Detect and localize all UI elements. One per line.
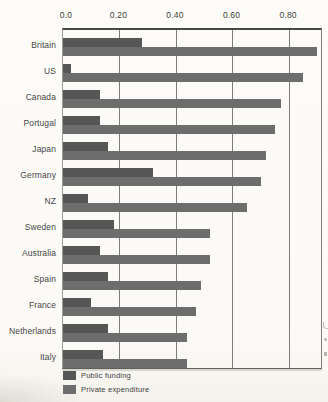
bar-private-expenditure bbox=[63, 177, 261, 186]
legend: Public funding Private expenditure bbox=[63, 370, 149, 398]
bar-private-expenditure bbox=[63, 151, 266, 160]
bar-public-funding bbox=[63, 246, 100, 255]
bar-private-expenditure bbox=[63, 359, 187, 368]
category-label: France bbox=[0, 300, 56, 310]
bar-public-funding bbox=[63, 38, 142, 47]
bar-private-expenditure bbox=[63, 47, 317, 56]
category-label: US bbox=[0, 66, 56, 76]
category-label: Portugal bbox=[0, 118, 56, 128]
scanned-chart-figure: 0.00.200.400.600.80 BritainUSCanadaPortu… bbox=[0, 0, 328, 402]
category-label: Sweden bbox=[0, 222, 56, 232]
legend-label: Private expenditure bbox=[81, 385, 149, 394]
bar-public-funding bbox=[63, 272, 108, 281]
bar-private-expenditure bbox=[63, 255, 210, 264]
bar-private-expenditure bbox=[63, 73, 303, 82]
x-axis-tick-label: 0.60 bbox=[223, 10, 240, 20]
bar-public-funding bbox=[63, 142, 108, 151]
bar-public-funding bbox=[63, 324, 108, 333]
category-label: Australia bbox=[0, 248, 56, 258]
category-label: Britain bbox=[0, 40, 56, 50]
bar-public-funding bbox=[63, 298, 91, 307]
category-label: Japan bbox=[0, 144, 56, 154]
x-axis-tick-label: 0.20 bbox=[110, 10, 127, 20]
page-edge-print-fragment bbox=[324, 352, 327, 356]
bar-private-expenditure bbox=[63, 99, 281, 108]
bar-private-expenditure bbox=[63, 203, 247, 212]
page-edge-print-fragment bbox=[323, 322, 328, 329]
bar-public-funding bbox=[63, 116, 100, 125]
legend-item-public-funding: Public funding bbox=[63, 370, 149, 381]
x-axis-tick-label: 0.40 bbox=[166, 10, 183, 20]
bar-public-funding bbox=[63, 350, 103, 359]
category-label: Netherlands bbox=[0, 326, 56, 336]
private-expenditure-swatch-icon bbox=[63, 385, 76, 394]
bar-private-expenditure bbox=[63, 229, 210, 238]
bar-public-funding bbox=[63, 220, 114, 229]
x-axis-tick-label: 0.0 bbox=[60, 10, 72, 20]
public-funding-swatch-icon bbox=[63, 371, 76, 380]
bar-public-funding bbox=[63, 90, 100, 99]
bar-public-funding bbox=[63, 168, 153, 177]
category-label: NZ bbox=[0, 196, 56, 206]
category-label: Canada bbox=[0, 92, 56, 102]
bar-private-expenditure bbox=[63, 125, 275, 134]
legend-item-private-expenditure: Private expenditure bbox=[63, 384, 149, 395]
bar-private-expenditure bbox=[63, 333, 187, 342]
category-label: Italy bbox=[0, 352, 56, 362]
bar-public-funding bbox=[63, 194, 88, 203]
legend-label: Public funding bbox=[81, 371, 131, 380]
page-edge-print-fragment bbox=[324, 338, 327, 341]
bar-private-expenditure bbox=[63, 281, 201, 290]
category-axis: BritainUSCanadaPortugalJapanGermanyNZSwe… bbox=[0, 0, 56, 402]
plot-area bbox=[62, 28, 322, 369]
bar-public-funding bbox=[63, 64, 71, 73]
category-label: Germany bbox=[0, 170, 56, 180]
x-axis-tick-label: 0.80 bbox=[279, 10, 296, 20]
category-label: Spain bbox=[0, 274, 56, 284]
bar-private-expenditure bbox=[63, 307, 196, 316]
